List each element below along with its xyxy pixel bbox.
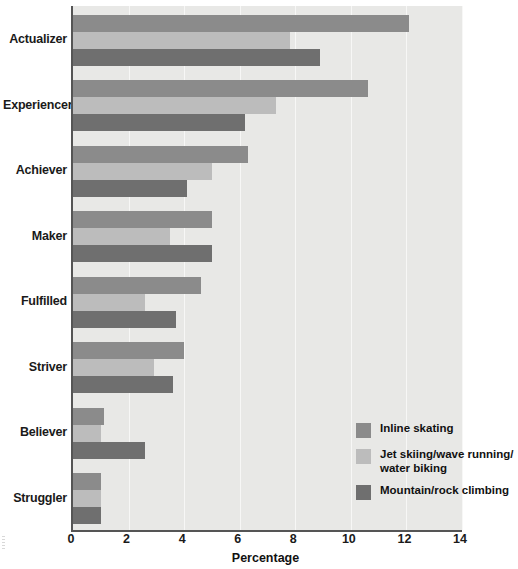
bar <box>73 473 101 490</box>
bar <box>73 425 101 442</box>
bar <box>73 245 212 262</box>
x-tick-label: 4 <box>179 532 186 546</box>
bar <box>73 376 173 393</box>
legend-item: Inline skating <box>356 422 518 439</box>
bar <box>73 180 187 197</box>
category-label: Fulfilled <box>3 294 67 308</box>
bar <box>73 163 212 180</box>
bar <box>73 49 320 66</box>
x-axis-ticks: 02468101214 <box>71 532 460 552</box>
bar-group <box>73 80 462 131</box>
bar-group <box>73 277 462 328</box>
legend-swatch <box>356 449 371 464</box>
category-label: Actualizer <box>3 32 67 46</box>
bar <box>73 211 212 228</box>
category-label: Striver <box>3 360 67 374</box>
bar <box>73 97 276 114</box>
legend-item: Jet skiing/wave running/water biking <box>356 448 518 475</box>
legend-label: Inline skating <box>380 422 518 436</box>
x-tick-label: 6 <box>234 532 241 546</box>
bar <box>73 114 245 131</box>
bar <box>73 311 176 328</box>
legend-swatch <box>356 485 371 500</box>
legend-item: Mountain/rock climbing <box>356 484 518 501</box>
bar <box>73 146 248 163</box>
bar-group <box>73 15 462 66</box>
legend: Inline skatingJet skiing/wave running/wa… <box>356 422 518 510</box>
bar <box>73 359 154 376</box>
legend-swatch <box>356 423 371 438</box>
x-tick-label: 10 <box>342 532 356 546</box>
bar <box>73 80 368 97</box>
category-label: Struggler <box>3 491 67 505</box>
category-label: Maker <box>3 229 67 243</box>
x-tick-label: 0 <box>68 532 75 546</box>
category-axis: ActualizerExperiencerAchieverMakerFulfil… <box>0 6 67 530</box>
bar <box>73 442 145 459</box>
legend-label: Mountain/rock climbing <box>380 484 518 498</box>
x-tick-label: 2 <box>123 532 130 546</box>
x-tick-label: 12 <box>397 532 411 546</box>
category-label: Experiencer <box>3 98 67 112</box>
bar <box>73 342 184 359</box>
x-tick-label: 14 <box>453 532 467 546</box>
bar-group <box>73 146 462 197</box>
bar <box>73 228 170 245</box>
bar <box>73 408 104 425</box>
bar <box>73 490 101 507</box>
bar-group <box>73 342 462 393</box>
category-label: Achiever <box>3 163 67 177</box>
bar <box>73 15 409 32</box>
bar <box>73 277 201 294</box>
bar-group <box>73 211 462 262</box>
x-tick-label: 8 <box>290 532 297 546</box>
legend-label-line2: water biking <box>380 462 518 476</box>
plot-area: Inline skatingJet skiing/wave running/wa… <box>71 6 462 532</box>
page-edge-artifact <box>2 536 5 550</box>
legend-label: Jet skiing/wave running/ <box>380 448 518 462</box>
bar <box>73 294 145 311</box>
bar <box>73 507 101 524</box>
category-label: Believer <box>3 425 67 439</box>
x-axis-label: Percentage <box>71 551 460 565</box>
bar <box>73 32 290 49</box>
